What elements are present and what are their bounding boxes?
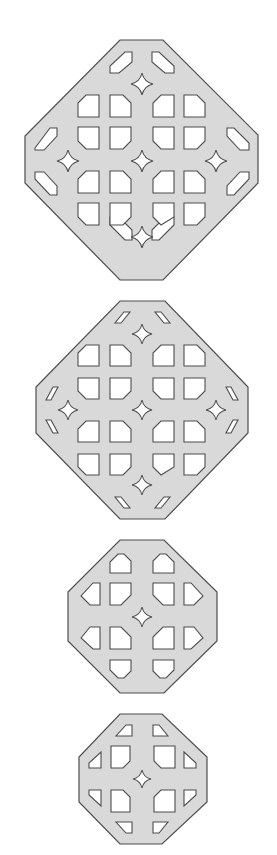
plate-2-large-octagon-slits: [36, 301, 248, 519]
figure-canvas: [0, 0, 277, 855]
plate-4-small-octagon: [79, 714, 207, 844]
cutout-hole: [154, 746, 175, 768]
plate-1-large-octagon: [25, 40, 258, 280]
plates-group: [25, 40, 258, 844]
cutout-hole: [154, 790, 175, 812]
plate-3-medium-octagon: [68, 540, 217, 693]
